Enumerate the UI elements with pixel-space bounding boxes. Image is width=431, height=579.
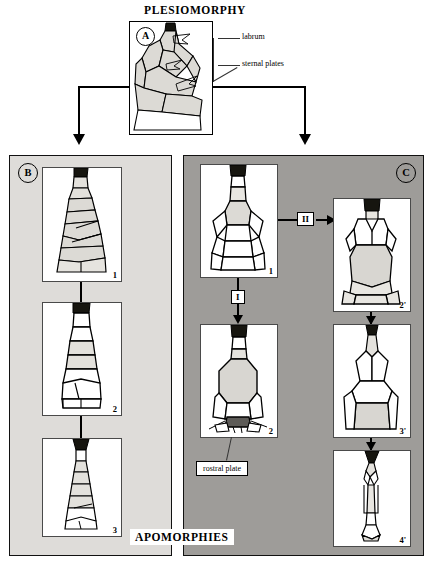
specimen-b1-frame: 1 [42, 167, 122, 282]
specimen-c2-morphology [201, 325, 275, 435]
leader-line-labrum [218, 38, 240, 39]
specimen-b1-morphology [43, 168, 119, 279]
leader-line-sternal-plates [218, 65, 240, 66]
specimen-c2prime-morphology [334, 199, 408, 309]
specimen-c1-frame: 1 [200, 164, 278, 278]
panel-b-tag: B [18, 163, 38, 183]
specimen-b2-frame: 2 [42, 302, 122, 416]
specimen-c4prime-frame: 4' [333, 450, 411, 547]
specimen-c3prime-morphology [334, 325, 408, 435]
specimen-label-c2: 2 [269, 426, 273, 436]
panel-c-tag: C [396, 163, 416, 183]
arrowhead-c1-c2 [233, 315, 243, 324]
tree-branch-left [78, 86, 80, 136]
arrowhead-to-panel-c [299, 134, 311, 145]
specimen-b3-morphology [43, 439, 119, 534]
connector-c1-to-II [276, 219, 297, 221]
apomorphies-title: APOMORPHIES [130, 529, 234, 545]
connector-b1-b2 [80, 280, 82, 302]
specimen-label-c1: 1 [269, 266, 273, 276]
specimen-label-c2prime: 2' [399, 300, 406, 310]
specimen-b2-morphology [43, 303, 119, 413]
leader-line-sternal-diagonal [213, 67, 238, 82]
specimen-label-c4prime: 4' [399, 535, 406, 545]
specimen-label-c3prime: 3' [399, 426, 406, 436]
tree-branch-right [304, 86, 306, 136]
specimen-b3-frame: 3 [42, 438, 122, 537]
label-rostral-plate: rostral plate [196, 461, 248, 476]
specimen-label-b1: 1 [113, 270, 117, 280]
connector-b2-b3 [80, 414, 82, 438]
connector-c1-to-I [237, 276, 239, 290]
specimen-label-b3: 3 [113, 525, 117, 535]
transition-label-II[interactable]: II [297, 212, 314, 226]
transition-label-I[interactable]: I [231, 290, 245, 304]
arrowhead-to-panel-b [73, 134, 85, 145]
panel-a-tag: A [136, 27, 155, 46]
specimen-c2-frame: 2 [200, 324, 278, 438]
specimen-c1-morphology [201, 165, 275, 275]
specimen-label-b2: 2 [113, 404, 117, 414]
specimen-c4prime-morphology [334, 451, 408, 544]
specimen-c3prime-frame: 3' [333, 324, 411, 438]
label-labrum: labrum [242, 32, 265, 41]
specimen-c2prime-frame: 2' [333, 198, 411, 312]
plesiomorphy-title: PLESIOMORPHY [95, 4, 295, 16]
leader-line-sternal-vertical [213, 38, 214, 82]
label-sternal-plates: sternal plates [242, 59, 284, 68]
